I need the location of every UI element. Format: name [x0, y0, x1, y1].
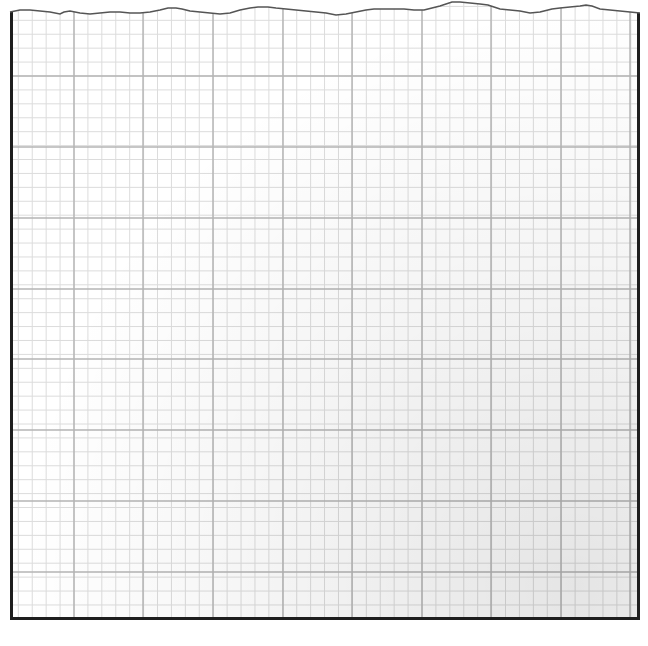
grid-lines — [13, 0, 637, 617]
graph-paper-sheet — [10, 0, 640, 620]
torn-top-edge — [0, 0, 648, 22]
